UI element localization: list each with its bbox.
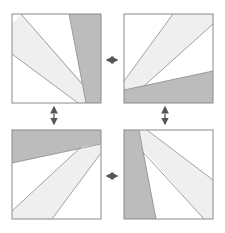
panel-bottom-right	[124, 130, 213, 219]
panel-top-left	[12, 14, 101, 103]
diagram-canvas	[0, 0, 225, 233]
panel-bottom-left	[12, 130, 101, 219]
panel-top-right	[124, 14, 213, 103]
